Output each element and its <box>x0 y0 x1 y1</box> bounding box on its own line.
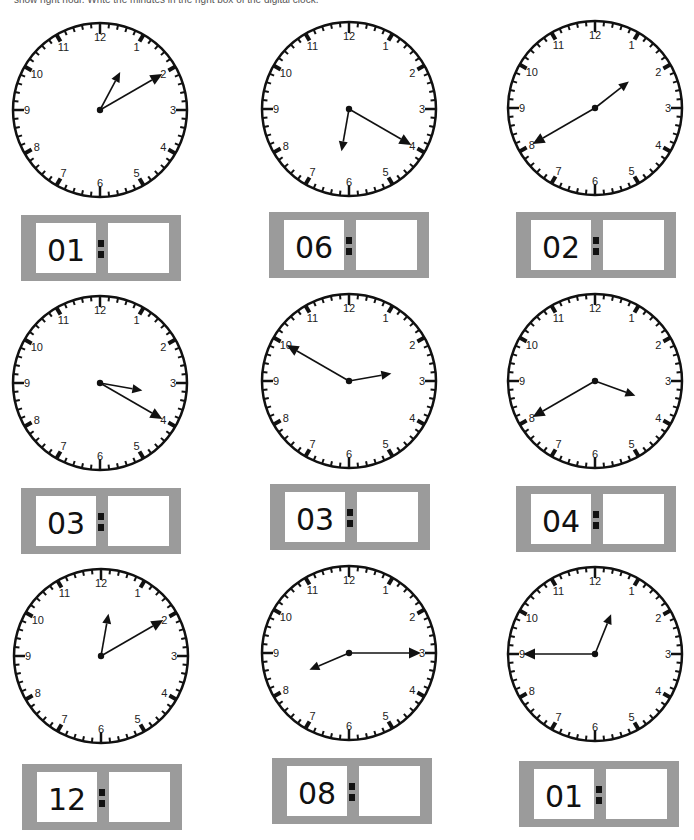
digital-clock: 01 <box>21 215 181 281</box>
colon-separator-icon <box>593 511 600 531</box>
clock-number: 4 <box>161 687 167 699</box>
digital-clock: 01 <box>519 761 679 827</box>
colon-separator-icon <box>596 786 603 806</box>
hour-display: 06 <box>284 220 344 270</box>
clock-number: 7 <box>60 440 66 452</box>
digital-clock: 03 <box>21 488 181 554</box>
clock-number: 10 <box>526 612 538 624</box>
clock-number: 12 <box>589 302 601 314</box>
clock-number: 7 <box>309 710 315 722</box>
clock-number: 8 <box>283 140 289 152</box>
clock-center-dot <box>592 651 598 657</box>
clock-number: 2 <box>655 612 661 624</box>
clock-number: 6 <box>97 450 103 462</box>
clock-number: 10 <box>526 339 538 351</box>
hour-display: 03 <box>36 496 96 546</box>
clock-number: 10 <box>280 67 292 79</box>
clock-center-dot <box>346 378 352 384</box>
digital-clock: 02 <box>516 212 676 278</box>
minute-answer-input[interactable] <box>109 772 170 822</box>
clock-face-icon: 121234567891011 <box>505 564 685 744</box>
clock-number: 2 <box>409 67 415 79</box>
clock-number: 1 <box>134 587 140 599</box>
clock-number: 10 <box>32 614 44 626</box>
clock-number: 3 <box>419 103 425 115</box>
minute-answer-input[interactable] <box>357 492 418 542</box>
clock-number: 2 <box>655 66 661 78</box>
clock-number: 3 <box>665 102 671 114</box>
colon-separator-icon <box>593 237 600 257</box>
clock-number: 4 <box>409 412 415 424</box>
minute-answer-input[interactable] <box>108 496 169 546</box>
analog-clock: 121234567891011 <box>10 20 190 200</box>
clock-number: 12 <box>343 30 355 42</box>
clock-number: 10 <box>280 611 292 623</box>
hour-display: 04 <box>531 494 591 544</box>
clock-number: 10 <box>526 66 538 78</box>
clock-number: 5 <box>628 438 634 450</box>
clock-face-icon: 121234567891011 <box>505 291 685 471</box>
clock-number: 5 <box>628 165 634 177</box>
clock-number: 11 <box>553 312 564 324</box>
clock-number: 12 <box>343 302 355 314</box>
clock-number: 10 <box>31 68 43 80</box>
colon-separator-icon <box>346 237 353 257</box>
clock-number: 1 <box>382 312 388 324</box>
clock-number: 6 <box>592 721 598 733</box>
clock-number: 7 <box>555 438 561 450</box>
clock-number: 7 <box>61 713 67 725</box>
clock-number: 12 <box>95 577 107 589</box>
digital-clock: 12 <box>22 764 182 830</box>
minute-answer-input[interactable] <box>603 494 664 544</box>
digital-clock: 06 <box>269 212 429 278</box>
clock-number: 5 <box>382 710 388 722</box>
minute-answer-input[interactable] <box>108 223 169 273</box>
clock-number: 9 <box>273 103 279 115</box>
clock-face-icon: 121234567891011 <box>11 566 191 746</box>
analog-clock: 121234567891011 <box>505 18 685 198</box>
clock-number: 12 <box>94 304 106 316</box>
clock-number: 10 <box>31 341 43 353</box>
clock-number: 11 <box>553 585 564 597</box>
minute-answer-input[interactable] <box>356 220 417 270</box>
clock-number: 9 <box>519 375 525 387</box>
minute-answer-input[interactable] <box>606 769 667 819</box>
clock-number: 7 <box>309 438 315 450</box>
clock-number: 6 <box>346 176 352 188</box>
clock-face-icon: 121234567891011 <box>10 20 190 200</box>
analog-clock: 121234567891011 <box>11 566 191 746</box>
clock-number: 1 <box>628 39 634 51</box>
clock-number: 12 <box>589 575 601 587</box>
clock-number: 2 <box>409 611 415 623</box>
clock-number: 7 <box>555 711 561 723</box>
clock-number: 7 <box>555 165 561 177</box>
clock-center-dot <box>592 378 598 384</box>
clock-number: 3 <box>171 650 177 662</box>
clock-face-icon: 121234567891011 <box>10 293 190 473</box>
clock-number: 4 <box>655 685 661 697</box>
clock-number: 9 <box>273 375 279 387</box>
clock-number: 3 <box>419 375 425 387</box>
minute-answer-input[interactable] <box>359 766 420 816</box>
hour-display: 02 <box>531 220 591 270</box>
clock-number: 4 <box>409 140 415 152</box>
minute-answer-input[interactable] <box>603 220 664 270</box>
clock-number: 9 <box>24 104 30 116</box>
clock-number: 1 <box>382 584 388 596</box>
analog-clock: 121234567891011 <box>259 19 439 199</box>
hour-display: 08 <box>287 766 347 816</box>
instructions-text: show right hour. Write the minutes in th… <box>14 0 318 5</box>
clock-face-icon: 121234567891011 <box>259 563 439 743</box>
analog-clock: 121234567891011 <box>505 564 685 744</box>
clock-number: 5 <box>134 713 140 725</box>
clock-number: 3 <box>665 648 671 660</box>
clock-number: 6 <box>592 448 598 460</box>
clock-number: 4 <box>655 412 661 424</box>
clock-number: 3 <box>170 104 176 116</box>
clock-number: 8 <box>34 141 40 153</box>
clock-number: 6 <box>98 723 104 735</box>
clock-number: 2 <box>655 339 661 351</box>
clock-center-dot <box>346 106 352 112</box>
clock-number: 5 <box>382 438 388 450</box>
clock-number: 2 <box>409 339 415 351</box>
